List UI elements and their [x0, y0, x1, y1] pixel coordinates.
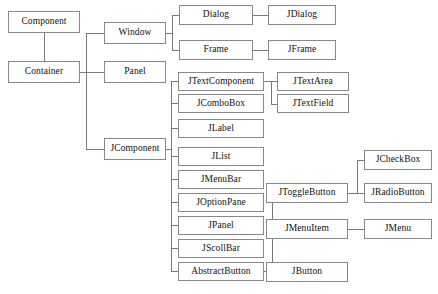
class-node-panel: Panel — [104, 61, 166, 83]
class-node-jtogglebutton: JToggleButton — [266, 183, 348, 203]
connector-jmenuitem-jmenu — [348, 229, 365, 230]
class-node-jlist: JList — [178, 147, 264, 166]
connector-window-trunk — [172, 15, 173, 50]
connector-stub-joptionpane — [171, 202, 178, 203]
class-hierarchy-diagram: ComponentContainerWindowPanelJComponentD… — [0, 0, 438, 294]
connector-dialog-jdialog — [253, 15, 268, 16]
class-node-container: Container — [8, 61, 80, 83]
connector-to-jcomponent — [86, 149, 104, 150]
class-node-window: Window — [104, 22, 166, 44]
connector-to-panel — [86, 72, 104, 73]
class-node-jcombobox: JComboBox — [178, 94, 264, 113]
connector-container-trunk-v — [86, 33, 87, 149]
connector-jcomp-trunk — [171, 81, 172, 272]
connector-stub-jcombobox — [171, 103, 178, 104]
class-node-joptionpane: JOptionPane — [178, 193, 264, 212]
connector-frame-jframe — [253, 50, 268, 51]
connector-stub-jlabel — [171, 128, 178, 129]
connector-to-dialog — [172, 15, 179, 16]
class-node-frame: Frame — [179, 40, 253, 60]
class-node-jtextcomponent: JTextComponent — [178, 72, 264, 91]
class-node-abstractbutton: AbstractButton — [178, 262, 264, 281]
connector-jtext-trunk — [271, 81, 272, 104]
class-node-jbutton: JButton — [266, 262, 348, 282]
class-node-jmenuitem: JMenuItem — [266, 219, 348, 239]
connector-to-window — [86, 33, 104, 34]
class-node-jmenu: JMenu — [364, 219, 432, 239]
connector-stub-jmenubar — [171, 179, 178, 180]
class-node-component: Component — [8, 11, 80, 33]
class-node-jtextfield: JTextField — [277, 94, 349, 113]
connector-jtoggle-trunk — [357, 160, 358, 194]
class-node-jcomponent: JComponent — [104, 138, 166, 160]
connector-component-container — [44, 33, 45, 61]
class-node-jframe: JFrame — [268, 40, 336, 60]
class-node-jradiobutton: JRadioButton — [364, 183, 432, 203]
class-node-jmenubar: JMenuBar — [178, 170, 264, 189]
class-node-jpanel: JPanel — [178, 216, 264, 235]
class-node-jlabel: JLabel — [178, 119, 264, 138]
class-node-jcheckbox: JCheckBox — [364, 150, 432, 170]
class-node-jtextarea: JTextArea — [277, 72, 349, 91]
connector-stub-jpanel — [171, 225, 178, 226]
class-node-jdialog: JDialog — [268, 5, 336, 25]
connector-stub-abstractbutton — [171, 271, 178, 272]
connector-stub-jscollbar — [171, 248, 178, 249]
class-node-dialog: Dialog — [179, 5, 253, 25]
connector-to-frame — [172, 50, 179, 51]
connector-stub-jtextcomponent — [171, 81, 178, 82]
connector-stub-jlist — [171, 156, 178, 157]
class-node-jscollbar: JScollBar — [178, 239, 264, 258]
